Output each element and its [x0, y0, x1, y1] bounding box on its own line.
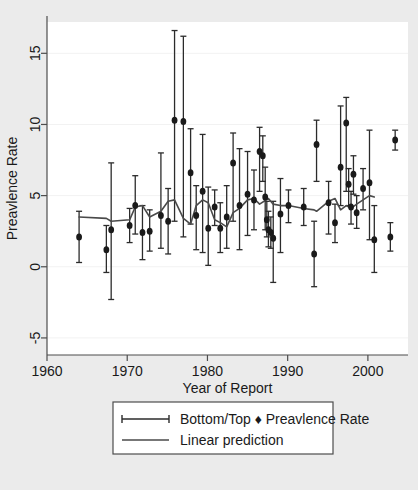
data-point-marker [212, 204, 218, 211]
data-point-marker [230, 159, 236, 166]
data-point-marker [140, 229, 146, 236]
data-point-marker [371, 236, 377, 243]
data-point-marker [332, 219, 338, 226]
data-point-marker [132, 202, 138, 209]
data-point-marker [165, 218, 171, 225]
data-point-marker [338, 164, 344, 171]
y-tick-label: 15 [27, 45, 43, 61]
data-point-marker [360, 185, 366, 192]
data-point-marker [343, 120, 349, 127]
data-point-marker [188, 169, 194, 176]
data-point-marker [237, 202, 243, 209]
data-point-marker [270, 235, 276, 242]
data-point-marker [245, 191, 251, 198]
data-point-marker [193, 212, 199, 219]
chart-figure: -5051015 19601970198019902000 Preavlence… [0, 0, 418, 490]
data-point-marker [301, 204, 307, 211]
data-point-marker [278, 211, 284, 218]
data-point-marker [172, 117, 178, 124]
data-point-marker [351, 171, 357, 178]
data-point-marker [387, 233, 393, 240]
y-axis-title: Preavlence Rate [4, 137, 20, 241]
data-point-marker [286, 202, 292, 209]
data-point-marker [367, 179, 373, 186]
y-tick-label: -5 [27, 331, 43, 344]
data-point-marker [224, 213, 230, 220]
data-point-marker [158, 212, 164, 219]
data-point-marker [76, 233, 82, 240]
prevalence-rate-scatter-chart: -5051015 19601970198019902000 Preavlence… [0, 0, 418, 490]
x-tick-label: 1980 [192, 363, 223, 379]
data-point-marker [180, 118, 186, 125]
data-point-marker [205, 225, 211, 232]
data-point-marker [392, 137, 398, 144]
data-point-marker [348, 204, 354, 211]
x-tick-label: 1970 [112, 363, 143, 379]
data-point-marker [311, 250, 317, 257]
x-tick-label: 1990 [272, 363, 303, 379]
data-point-marker [147, 228, 153, 235]
data-point-marker [103, 246, 109, 253]
data-point-marker [251, 196, 257, 203]
legend-label-prevalence: Bottom/Top ♦ Preavlence Rate [180, 411, 369, 427]
data-point-marker [127, 222, 133, 229]
data-point-marker [262, 194, 268, 201]
x-tick-label: 2000 [352, 363, 383, 379]
y-tick-label: 0 [27, 263, 43, 271]
data-point-marker [264, 216, 270, 223]
legend-label-linear-prediction: Linear prediction [180, 432, 284, 448]
data-point-marker [326, 199, 332, 206]
y-tick-label: 5 [27, 192, 43, 200]
data-point-marker [346, 181, 352, 188]
data-point-marker [314, 141, 320, 148]
chart-legend: Bottom/Top ♦ Preavlence Rate Linear pred… [113, 402, 369, 454]
data-point-marker [217, 225, 223, 232]
x-axis-title: Year of Report [183, 380, 273, 396]
data-point-marker [354, 209, 360, 216]
x-tick-label: 1960 [31, 363, 62, 379]
data-point-marker [108, 226, 114, 233]
y-tick-label: 10 [27, 116, 43, 132]
data-point-marker [200, 188, 206, 195]
data-point-marker [260, 152, 266, 159]
